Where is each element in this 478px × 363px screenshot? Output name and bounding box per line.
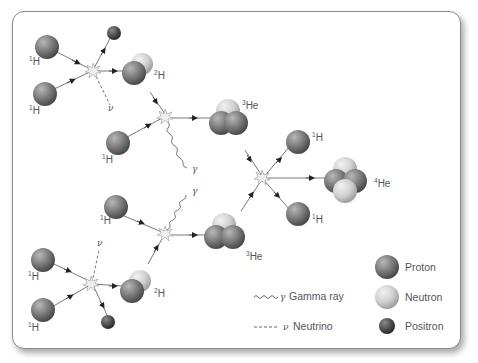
label-4he: 4He [374, 177, 391, 189]
neutrino-symbol: ν [108, 103, 114, 113]
label-2h: 2H [154, 69, 165, 81]
label-1h: 1H [29, 104, 40, 116]
legend-neutron-label: Neutron [405, 291, 443, 303]
label-1h: 1H [312, 213, 323, 225]
proton [31, 298, 55, 322]
collision-flash-icon [85, 63, 101, 78]
proton [106, 131, 130, 155]
legend-positron-label: Positron [405, 320, 444, 332]
proton [31, 248, 55, 272]
collision-flash-icon [83, 276, 99, 291]
gamma-symbol: γ [192, 186, 198, 196]
label-1h: 1H [102, 153, 113, 165]
neutron [333, 179, 357, 203]
proton [221, 225, 245, 249]
reaction-1-top: 1H 1H 2H ν [29, 26, 165, 116]
reaction-3-final: 1H 1H 4He [241, 130, 391, 226]
proton [286, 130, 310, 154]
label-1h: 1H [28, 321, 39, 333]
legend-positron-icon [379, 318, 395, 334]
positron [107, 26, 121, 40]
proton-proton-chain-diagram: 1H 1H 2H ν 1H 3He γ [0, 0, 478, 363]
legend-proton-icon [375, 255, 399, 279]
label-1h: 1H [29, 55, 40, 67]
label-1h: 1H [28, 270, 39, 282]
neutrino-symbol: ν [97, 238, 103, 248]
gamma-symbol: γ [192, 164, 198, 174]
legend-gamma-symbol: γ [280, 292, 286, 302]
label-3he: 3He [246, 250, 263, 262]
proton [33, 82, 57, 106]
proton [224, 111, 248, 135]
label-3he: 3He [242, 99, 259, 111]
gamma-ray-wave-icon [254, 296, 278, 299]
label-2h: 2H [154, 287, 165, 299]
reaction-2-upper: 1H 3He γ [102, 92, 259, 174]
reaction-4-lower: 1H 3He γ [100, 186, 263, 264]
legend-nu-label: Neutrino [293, 320, 333, 332]
legend: γ Gamma ray ν Neutrino Proton Neutron Po… [254, 255, 444, 334]
proton [286, 202, 310, 226]
legend-gamma-label: Gamma ray [289, 290, 345, 302]
label-1h: 1H [312, 131, 323, 143]
collision-flash-icon [157, 109, 173, 124]
proton [120, 279, 144, 303]
legend-proton-label: Proton [405, 261, 436, 273]
positron [101, 315, 115, 329]
legend-neutron-icon [375, 285, 399, 309]
reaction-5-bottom: 1H 1H 2H ν [28, 238, 165, 333]
label-1h: 1H [100, 214, 111, 226]
legend-nu-symbol: ν [283, 322, 289, 332]
collision-flash-icon [157, 226, 173, 241]
proton [122, 61, 146, 85]
